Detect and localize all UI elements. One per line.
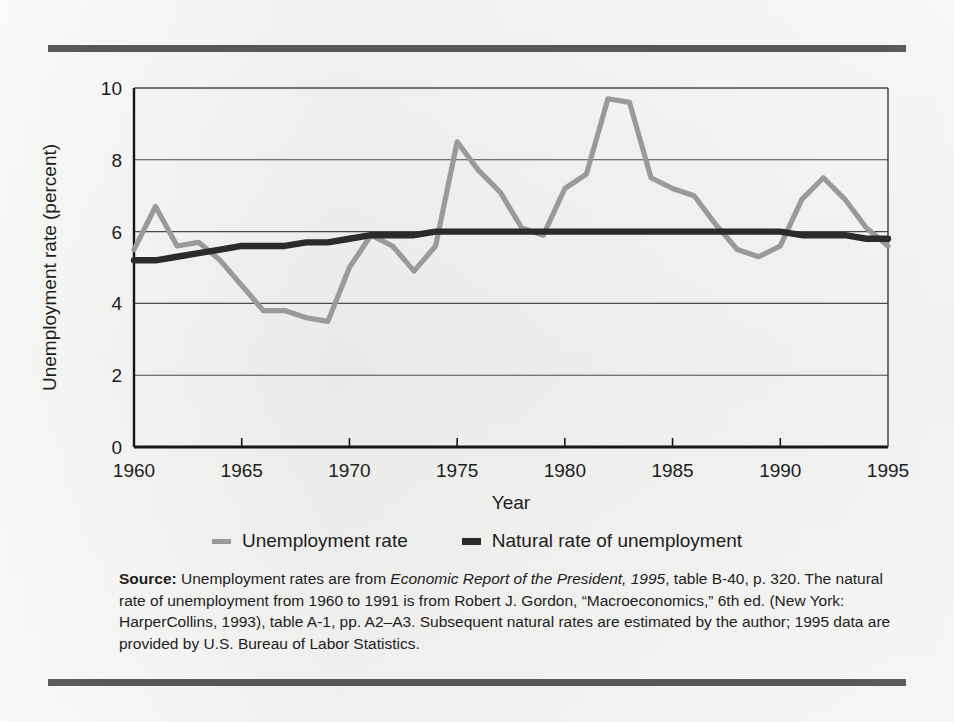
x-tick-label: 1995 <box>867 460 909 481</box>
source-note: Source: Unemployment rates are from Econ… <box>119 568 909 654</box>
axis-frame-group <box>134 88 888 447</box>
y-tick-label: 6 <box>111 222 122 243</box>
x-tick-label: 1965 <box>221 460 263 481</box>
x-axis-ticks-group: 19601965197019751980198519901995 <box>113 438 909 481</box>
legend-item-natural-rate: Natural rate of unemployment <box>462 530 742 552</box>
legend-line-swatch-icon <box>462 538 481 545</box>
y-tick-label: 10 <box>101 78 122 99</box>
data-series-group <box>134 99 888 322</box>
series-line-unemployment-rate <box>134 99 888 322</box>
chart-legend: Unemployment rate Natural rate of unempl… <box>0 524 954 558</box>
legend-item-unemployment-rate: Unemployment rate <box>212 530 408 552</box>
line-chart-svg: 0246810 19601965197019751980198519901995… <box>0 60 954 520</box>
chart-area: 0246810 19601965197019751980198519901995… <box>0 60 954 520</box>
x-tick-label: 1960 <box>113 460 155 481</box>
top-rule <box>48 45 906 52</box>
y-tick-label: 0 <box>111 437 122 458</box>
legend-label: Natural rate of unemployment <box>492 530 742 552</box>
legend-line-swatch-icon <box>212 539 231 544</box>
x-tick-label: 1985 <box>651 460 693 481</box>
y-axis-title: Unemployment rate (percent) <box>39 144 60 391</box>
x-tick-label: 1975 <box>436 460 478 481</box>
figure-panel: 0246810 19601965197019751980198519901995… <box>0 0 954 722</box>
y-tick-label: 8 <box>111 150 122 171</box>
source-note-segment-1: Unemployment rates are from <box>177 570 391 587</box>
x-axis-title: Year <box>492 492 531 513</box>
x-tick-label: 1980 <box>544 460 586 481</box>
y-tick-label: 2 <box>111 365 122 386</box>
x-tick-label: 1990 <box>759 460 801 481</box>
y-axis-ticks-group: 0246810 <box>101 78 123 458</box>
legend-label: Unemployment rate <box>242 530 408 552</box>
y-tick-label: 4 <box>111 293 122 314</box>
source-note-italic-title: Economic Report of the President, 1995 <box>390 570 665 587</box>
x-tick-label: 1970 <box>328 460 370 481</box>
bottom-rule <box>48 679 906 686</box>
source-note-prefix: Source: <box>119 570 177 587</box>
